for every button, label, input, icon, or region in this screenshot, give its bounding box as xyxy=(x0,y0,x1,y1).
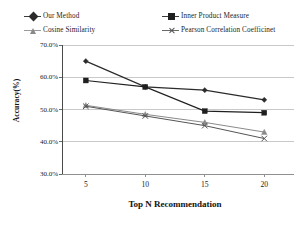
data-point xyxy=(262,110,267,115)
series-inner-product-measure xyxy=(83,78,266,115)
data-point xyxy=(202,88,207,93)
data-point xyxy=(83,59,88,64)
series-cosine-similarity xyxy=(83,103,267,135)
data-point xyxy=(83,78,88,83)
data-point xyxy=(143,84,148,89)
data-point xyxy=(202,109,207,114)
series-our-method xyxy=(83,59,267,103)
data-point xyxy=(262,97,267,102)
accuracy-line-chart: Our Method Inner Product Measure Cosine … xyxy=(0,0,304,228)
series-layer xyxy=(0,0,304,228)
